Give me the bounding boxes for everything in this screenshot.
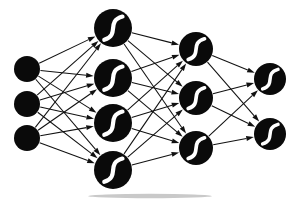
neuron-node-input: [14, 125, 40, 151]
neuron-node-input: [14, 91, 40, 117]
neuron-node-hidden: [179, 131, 213, 165]
neuron-disc: [14, 91, 40, 117]
neuron-node-hidden: [179, 81, 213, 115]
diagram-background: [0, 0, 299, 203]
caption-smudge: [88, 194, 212, 198]
neuron-disc: [14, 56, 40, 82]
neural-network-diagram: [0, 0, 299, 203]
neuron-node-input: [14, 56, 40, 82]
neuron-node-hidden: [94, 9, 132, 47]
neuron-node-hidden: [179, 32, 213, 66]
neuron-node-hidden: [94, 104, 132, 142]
neuron-node-output: [254, 118, 286, 150]
neuron-node-output: [254, 63, 286, 95]
neuron-node-hidden: [94, 151, 132, 189]
network-canvas: [0, 0, 299, 203]
neuron-node-hidden: [94, 59, 132, 97]
neuron-disc: [14, 125, 40, 151]
